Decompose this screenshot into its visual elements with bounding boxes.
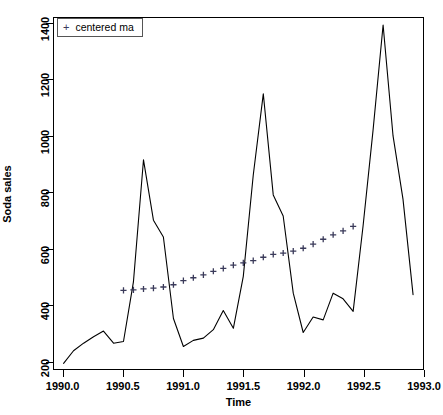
centered-ma-marker [240, 260, 246, 266]
centered-ma-marker [330, 232, 336, 238]
x-axis-tick-label: 1992.5 [347, 380, 381, 392]
soda-sales-line [64, 25, 413, 363]
centered-ma-marker [230, 262, 236, 268]
centered-ma-marker [320, 236, 326, 242]
x-axis-tick-label: 1990.5 [106, 380, 140, 392]
legend-marker-icon: + [63, 22, 69, 33]
centered-ma-marker [140, 286, 146, 292]
x-axis-tick-label: 1990.0 [46, 380, 80, 392]
x-axis-tick-label: 1991.5 [226, 380, 260, 392]
centered-ma-marker [300, 245, 306, 251]
x-axis-tick [304, 370, 305, 377]
y-axis-tick-label: 1400 [39, 16, 51, 40]
chart-legend: + centered ma [57, 18, 143, 37]
x-axis-tick-label: 1991.0 [166, 380, 200, 392]
centered-ma-marker [270, 251, 276, 257]
centered-ma-marker [350, 223, 356, 229]
x-axis-title: Time [53, 396, 424, 408]
centered-ma-marker [220, 265, 226, 271]
x-axis-tick [183, 370, 184, 377]
x-axis-tick-label: 1993.0 [407, 380, 441, 392]
centered-ma-marker [260, 254, 266, 260]
x-axis-tick [364, 370, 365, 377]
centered-ma-marker [250, 258, 256, 264]
centered-ma-marker [280, 250, 286, 256]
centered-ma-marker [120, 287, 126, 293]
y-axis-tick-label: 1000 [39, 129, 51, 153]
centered-ma-marker [340, 228, 346, 234]
y-axis-tick-label: 200 [39, 358, 51, 376]
centered-ma-marker [200, 272, 206, 278]
legend-item-label: centered ma [75, 22, 133, 33]
plot-canvas [54, 18, 423, 369]
x-axis-tick-label: 1992.0 [287, 380, 321, 392]
centered-ma-marker [290, 248, 296, 254]
y-axis-tick-label: 400 [39, 302, 51, 320]
x-axis-tick [243, 370, 244, 377]
y-axis-tick-label: 1200 [39, 73, 51, 97]
y-axis-title: Soda sales [0, 17, 14, 370]
soda-sales-chart: Soda sales 200400600800100012001400 1990… [0, 0, 443, 415]
centered-ma-marker [150, 285, 156, 291]
centered-ma-marker [180, 277, 186, 283]
y-axis-tick-label: 600 [39, 245, 51, 263]
centered-ma-marker [310, 241, 316, 247]
centered-ma-marker [160, 284, 166, 290]
plot-area [53, 17, 424, 370]
centered-ma-marker [190, 275, 196, 281]
x-axis-tick [63, 370, 64, 377]
centered-ma-marker [170, 282, 176, 288]
centered-ma-markers [120, 223, 356, 293]
y-axis-tick-label: 800 [39, 189, 51, 207]
y-axis-title-label: Soda sales [1, 165, 13, 222]
x-axis-tick [424, 370, 425, 377]
x-axis-tick [123, 370, 124, 377]
centered-ma-marker [210, 268, 216, 274]
